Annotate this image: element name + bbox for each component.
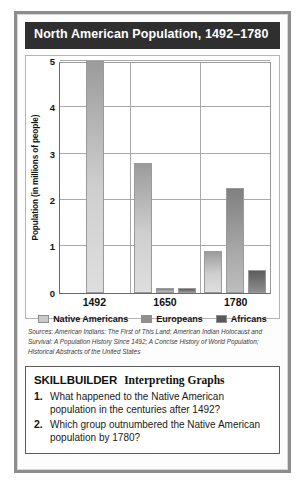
y-tick-label: 1 (50, 243, 55, 253)
bar (156, 288, 174, 293)
y-tick-label: 0 (50, 289, 55, 299)
legend-swatch (38, 315, 49, 323)
question-text: What happened to the Native American pop… (50, 390, 271, 416)
figure-frame: North American Population, 1492–1780 Pop… (14, 11, 291, 473)
legend-label: Native Americans (53, 314, 128, 324)
question-text: Which group outnumbered the Native Ameri… (50, 418, 271, 444)
skillbuilder-question: 1.What happened to the Native American p… (34, 390, 271, 416)
legend-item: Native Americans (38, 314, 128, 324)
chart-body: Population (in millions of people) 01234… (30, 62, 273, 314)
y-axis-ticks: 012345 (44, 62, 56, 294)
legend-item: Europeans (141, 314, 203, 324)
legend-swatch (216, 315, 227, 323)
chart-title-bar: North American Population, 1492–1780 (25, 22, 280, 49)
y-tick-label: 5 (50, 57, 55, 67)
bar (226, 188, 244, 292)
skillbuilder-question: 2.Which group outnumbered the Native Ame… (34, 418, 271, 444)
sources-note: Sources: American Indians: The First of … (25, 327, 280, 357)
legend-swatch (141, 315, 152, 323)
x-axis-ticks: 149216501780 (59, 296, 271, 312)
bar-group (60, 63, 130, 293)
chart-card: Population (in millions of people) 01234… (25, 55, 280, 319)
skillbuilder-subtitle: Interpreting Graphs (124, 374, 224, 386)
x-tick-label: 1780 (224, 296, 247, 308)
bar-group (130, 63, 200, 293)
legend-label: Europeans (156, 314, 203, 324)
x-tick-label: 1492 (83, 296, 106, 308)
question-number: 2. (34, 418, 45, 444)
figure-inner: North American Population, 1492–1780 Pop… (17, 14, 288, 470)
bar-group (200, 63, 270, 293)
skillbuilder-box: SKILLBUILDER Interpreting Graphs 1.What … (25, 366, 280, 455)
y-axis-title-text: Population (in millions of people) (32, 115, 41, 241)
y-tick-label: 4 (50, 103, 55, 113)
y-tick-label: 2 (50, 196, 55, 206)
question-number: 1. (34, 390, 45, 416)
bar (204, 251, 222, 293)
x-tick-label: 1650 (153, 296, 176, 308)
y-axis-title: Population (in millions of people) (28, 62, 44, 294)
bar (248, 270, 266, 293)
plot-area (59, 62, 271, 294)
y-tick-label: 3 (50, 150, 55, 160)
bar (134, 163, 152, 293)
bar (86, 61, 104, 293)
chart-legend: Native AmericansEuropeansAfricans (32, 314, 273, 324)
skillbuilder-heading: SKILLBUILDER Interpreting Graphs (34, 374, 271, 386)
legend-label: Africans (231, 314, 267, 324)
skillbuilder-title: SKILLBUILDER (34, 374, 117, 386)
skillbuilder-questions: 1.What happened to the Native American p… (34, 390, 271, 445)
legend-item: Africans (216, 314, 267, 324)
bar (178, 288, 196, 293)
